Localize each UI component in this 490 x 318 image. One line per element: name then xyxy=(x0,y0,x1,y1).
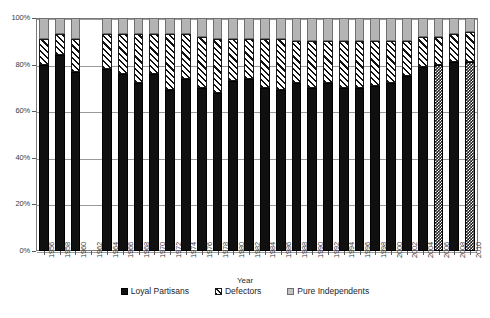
stacked-bar[interactable] xyxy=(386,18,396,251)
bar-segment-loyal-partisans[interactable] xyxy=(102,69,112,251)
bar-segment-pure-independents[interactable] xyxy=(323,18,333,41)
bar-segment-pure-independents[interactable] xyxy=(386,18,396,41)
stacked-bar[interactable] xyxy=(465,18,475,251)
bar-segment-loyal-partisans[interactable] xyxy=(292,83,302,251)
stacked-bar[interactable] xyxy=(181,18,191,251)
bar-segment-defectors[interactable] xyxy=(181,34,191,78)
stacked-bar[interactable] xyxy=(165,18,175,251)
bar-segment-defectors[interactable] xyxy=(102,34,112,69)
bar-segment-defectors[interactable] xyxy=(118,34,128,74)
bar-segment-pure-independents[interactable] xyxy=(355,18,365,41)
bar-segment-pure-independents[interactable] xyxy=(244,18,254,39)
bar-segment-loyal-partisans[interactable] xyxy=(307,88,317,251)
bar-segment-loyal-partisans[interactable] xyxy=(465,62,475,251)
bar-segment-defectors[interactable] xyxy=(402,41,412,76)
stacked-bar[interactable] xyxy=(292,18,302,251)
bar-segment-loyal-partisans[interactable] xyxy=(244,79,254,251)
bar-segment-defectors[interactable] xyxy=(418,37,428,67)
stacked-bar[interactable] xyxy=(323,18,333,251)
bar-segment-loyal-partisans[interactable] xyxy=(55,55,65,251)
bar-segment-defectors[interactable] xyxy=(434,37,444,65)
bar-segment-pure-independents[interactable] xyxy=(434,18,444,37)
bar-segment-defectors[interactable] xyxy=(244,39,254,79)
bar-segment-pure-independents[interactable] xyxy=(118,18,128,34)
bar-segment-pure-independents[interactable] xyxy=(71,18,81,39)
stacked-bar[interactable] xyxy=(134,18,144,251)
bar-segment-loyal-partisans[interactable] xyxy=(197,88,207,251)
bar-segment-pure-independents[interactable] xyxy=(134,18,144,34)
bar-segment-defectors[interactable] xyxy=(370,41,380,85)
stacked-bar[interactable] xyxy=(71,18,81,251)
bar-segment-pure-independents[interactable] xyxy=(181,18,191,34)
bar-segment-pure-independents[interactable] xyxy=(149,18,159,34)
bar-segment-defectors[interactable] xyxy=(386,41,396,83)
bar-segment-pure-independents[interactable] xyxy=(418,18,428,37)
bar-segment-loyal-partisans[interactable] xyxy=(402,76,412,251)
bar-segment-defectors[interactable] xyxy=(355,41,365,88)
bar-segment-loyal-partisans[interactable] xyxy=(260,88,270,251)
bar-segment-pure-independents[interactable] xyxy=(165,18,175,34)
stacked-bar[interactable] xyxy=(355,18,365,251)
stacked-bar[interactable] xyxy=(449,18,459,251)
bar-segment-loyal-partisans[interactable] xyxy=(386,83,396,251)
bar-segment-defectors[interactable] xyxy=(465,32,475,62)
bar-segment-defectors[interactable] xyxy=(149,34,159,74)
stacked-bar[interactable] xyxy=(213,18,223,251)
bar-segment-pure-independents[interactable] xyxy=(292,18,302,41)
stacked-bar[interactable] xyxy=(339,18,349,251)
bar-segment-defectors[interactable] xyxy=(197,37,207,88)
stacked-bar[interactable] xyxy=(402,18,412,251)
bar-segment-pure-independents[interactable] xyxy=(339,18,349,41)
bar-segment-pure-independents[interactable] xyxy=(39,18,49,39)
bar-segment-loyal-partisans[interactable] xyxy=(118,74,128,251)
bar-segment-defectors[interactable] xyxy=(307,41,317,88)
bar-segment-loyal-partisans[interactable] xyxy=(418,67,428,251)
bar-segment-loyal-partisans[interactable] xyxy=(213,93,223,251)
bar-segment-defectors[interactable] xyxy=(323,41,333,83)
legend-item[interactable]: Pure Independents xyxy=(287,286,369,296)
bar-segment-pure-independents[interactable] xyxy=(213,18,223,39)
stacked-bar[interactable] xyxy=(197,18,207,251)
stacked-bar[interactable] xyxy=(55,18,65,251)
bar-segment-defectors[interactable] xyxy=(213,39,223,93)
stacked-bar[interactable] xyxy=(370,18,380,251)
bar-segment-loyal-partisans[interactable] xyxy=(134,83,144,251)
stacked-bar[interactable] xyxy=(276,18,286,251)
legend-item[interactable]: Loyal Partisans xyxy=(121,286,189,296)
bar-segment-loyal-partisans[interactable] xyxy=(276,90,286,251)
bar-segment-pure-independents[interactable] xyxy=(228,18,238,39)
stacked-bar[interactable] xyxy=(228,18,238,251)
stacked-bar[interactable] xyxy=(149,18,159,251)
bar-segment-loyal-partisans[interactable] xyxy=(355,88,365,251)
bar-segment-loyal-partisans[interactable] xyxy=(449,62,459,251)
bar-segment-loyal-partisans[interactable] xyxy=(339,88,349,251)
bar-segment-defectors[interactable] xyxy=(134,34,144,83)
bar-segment-defectors[interactable] xyxy=(276,39,286,90)
bar-segment-defectors[interactable] xyxy=(165,34,175,90)
bar-segment-pure-independents[interactable] xyxy=(465,18,475,32)
legend-item[interactable]: Defectors xyxy=(215,286,261,296)
bar-segment-defectors[interactable] xyxy=(228,39,238,81)
bar-segment-pure-independents[interactable] xyxy=(55,18,65,34)
bar-segment-defectors[interactable] xyxy=(55,34,65,55)
bar-segment-pure-independents[interactable] xyxy=(402,18,412,41)
bar-segment-pure-independents[interactable] xyxy=(307,18,317,41)
bar-segment-pure-independents[interactable] xyxy=(370,18,380,41)
bar-segment-defectors[interactable] xyxy=(292,41,302,83)
bar-segment-loyal-partisans[interactable] xyxy=(39,65,49,251)
stacked-bar[interactable] xyxy=(260,18,270,251)
bar-segment-loyal-partisans[interactable] xyxy=(71,72,81,251)
bar-segment-defectors[interactable] xyxy=(260,39,270,88)
stacked-bar[interactable] xyxy=(418,18,428,251)
bar-segment-pure-independents[interactable] xyxy=(449,18,459,34)
bar-segment-pure-independents[interactable] xyxy=(102,18,112,34)
bar-segment-loyal-partisans[interactable] xyxy=(370,86,380,251)
stacked-bar[interactable] xyxy=(307,18,317,251)
bar-segment-pure-independents[interactable] xyxy=(197,18,207,37)
bar-segment-pure-independents[interactable] xyxy=(276,18,286,39)
stacked-bar[interactable] xyxy=(39,18,49,251)
stacked-bar[interactable] xyxy=(244,18,254,251)
bar-segment-loyal-partisans[interactable] xyxy=(228,81,238,251)
bar-segment-loyal-partisans[interactable] xyxy=(181,79,191,251)
bar-segment-loyal-partisans[interactable] xyxy=(149,74,159,251)
